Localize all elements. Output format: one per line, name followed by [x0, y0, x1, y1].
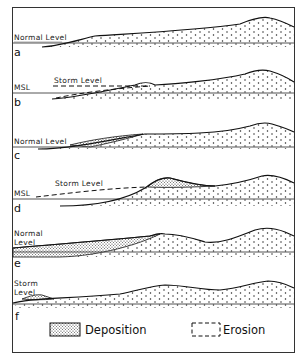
level-label-line-1: Storm: [14, 279, 38, 288]
msl-label: MSL: [14, 83, 31, 92]
erosion-label: Erosion: [223, 323, 265, 337]
panel-letter: e: [14, 257, 21, 270]
panel-letter: c: [14, 149, 20, 162]
deposition-swatch: [50, 323, 80, 336]
deposition-label: Deposition: [85, 323, 146, 337]
panel-letter: d: [14, 202, 21, 215]
panel-letter: a: [14, 46, 21, 59]
panel-letter: b: [14, 96, 21, 109]
storm-level-label: Storm Level: [54, 76, 102, 85]
msl-label: MSL: [14, 189, 31, 198]
beach-profile-diagram: Normal Level a MSL Storm Level b Normal …: [0, 0, 303, 363]
level-label-line-1: Normal: [14, 229, 43, 238]
storm-level-label: Storm Level: [55, 179, 103, 188]
level-label: Normal Level: [14, 137, 67, 146]
level-label-line-2: Level: [14, 288, 35, 297]
level-label: Normal Level: [14, 33, 67, 42]
level-label-line-2: Level: [14, 238, 35, 247]
